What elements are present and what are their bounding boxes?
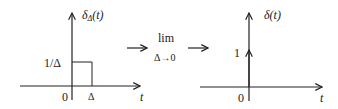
rectangular-pulse bbox=[72, 62, 92, 86]
pulse-width-label: Δ bbox=[88, 91, 95, 102]
limit-operator: lim Δ→0 bbox=[127, 31, 208, 63]
left-x-label: t bbox=[140, 90, 144, 104]
right-y-label: δ(t) bbox=[264, 8, 281, 22]
impulse-area-label: 1 bbox=[234, 46, 240, 60]
right-origin-label: 0 bbox=[238, 91, 244, 105]
pulse-height-label: 1/Δ bbox=[44, 56, 61, 70]
lim-label: lim bbox=[158, 31, 175, 45]
left-y-label: δΔ(t) bbox=[82, 8, 104, 23]
left-graph: δΔ(t) 1/Δ 0 Δ t bbox=[20, 8, 144, 104]
right-graph: δ(t) 1 0 t bbox=[200, 8, 324, 105]
lim-subscript: Δ→0 bbox=[154, 52, 175, 63]
left-origin-label: 0 bbox=[62, 90, 68, 104]
right-x-label: t bbox=[320, 91, 324, 105]
delta-limit-diagram: δΔ(t) 1/Δ 0 Δ t lim Δ→0 δ(t) 1 0 t bbox=[0, 0, 338, 109]
